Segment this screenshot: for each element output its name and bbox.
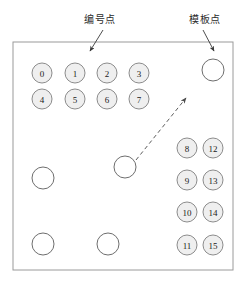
numbered-point-1[interactable] bbox=[65, 63, 85, 83]
numbered-point-14[interactable] bbox=[203, 202, 223, 222]
annotation-label-numbered-points: 编号点 bbox=[84, 15, 116, 25]
numbered-point-0[interactable] bbox=[32, 63, 52, 83]
numbered-point-9[interactable] bbox=[177, 170, 197, 190]
numbered-point-12[interactable] bbox=[203, 138, 223, 158]
template-point-bottom-center[interactable] bbox=[97, 233, 119, 255]
annotation-label-template-points: 模板点 bbox=[189, 15, 221, 25]
numbered-point-13[interactable] bbox=[203, 170, 223, 190]
numbered-point-2[interactable] bbox=[97, 63, 117, 83]
numbered-point-7[interactable] bbox=[129, 89, 149, 109]
template-point-center[interactable] bbox=[114, 156, 136, 178]
numbered-point-5[interactable] bbox=[65, 89, 85, 109]
numbered-point-3[interactable] bbox=[129, 63, 149, 83]
numbered-point-8[interactable] bbox=[177, 138, 197, 158]
numbered-point-11[interactable] bbox=[177, 235, 197, 255]
numbered-point-15[interactable] bbox=[203, 235, 223, 255]
template-point-top-right[interactable] bbox=[202, 59, 224, 81]
figure-vector-layer bbox=[0, 0, 248, 284]
numbered-point-4[interactable] bbox=[32, 89, 52, 109]
figure-canvas: 编号点模板点 0123456781291310141115 bbox=[0, 0, 248, 284]
template-point-left[interactable] bbox=[32, 167, 54, 189]
numbered-point-6[interactable] bbox=[97, 89, 117, 109]
template-point-bottom-left[interactable] bbox=[32, 233, 54, 255]
numbered-point-10[interactable] bbox=[177, 202, 197, 222]
